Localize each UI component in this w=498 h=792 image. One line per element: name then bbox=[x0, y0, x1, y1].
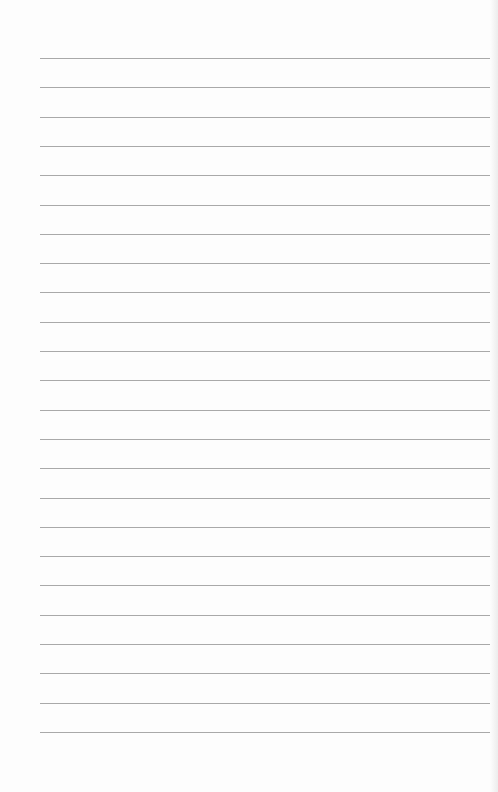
paper-edge-shadow bbox=[490, 0, 498, 792]
ruled-line bbox=[40, 234, 492, 235]
ruled-line bbox=[40, 644, 492, 645]
ruled-line bbox=[40, 615, 492, 616]
lined-paper-sheet bbox=[0, 0, 498, 792]
ruled-line bbox=[40, 673, 492, 674]
ruled-line bbox=[40, 527, 492, 528]
ruled-line bbox=[40, 585, 492, 586]
ruled-line bbox=[40, 58, 492, 59]
ruled-line bbox=[40, 410, 492, 411]
ruled-line bbox=[40, 175, 492, 176]
ruled-line bbox=[40, 732, 492, 733]
ruled-line bbox=[40, 263, 492, 264]
ruled-line bbox=[40, 117, 492, 118]
ruled-line bbox=[40, 380, 492, 381]
ruled-line bbox=[40, 322, 492, 323]
ruled-line bbox=[40, 205, 492, 206]
ruled-line bbox=[40, 498, 492, 499]
ruled-line bbox=[40, 351, 492, 352]
ruled-line bbox=[40, 703, 492, 704]
ruled-line bbox=[40, 146, 492, 147]
ruled-line bbox=[40, 292, 492, 293]
ruled-line bbox=[40, 556, 492, 557]
ruled-line bbox=[40, 468, 492, 469]
ruled-line bbox=[40, 439, 492, 440]
ruled-line bbox=[40, 87, 492, 88]
